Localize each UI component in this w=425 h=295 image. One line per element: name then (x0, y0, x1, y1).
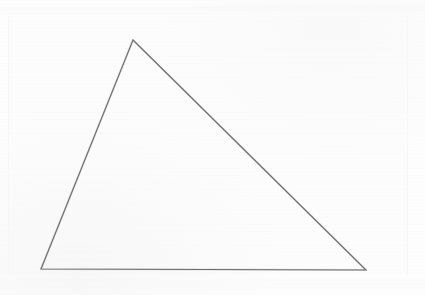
triangle-halo-stroke (41, 40, 366, 270)
triangle-figure (0, 0, 425, 295)
scan-page (0, 0, 425, 295)
triangle-outline (41, 40, 366, 270)
